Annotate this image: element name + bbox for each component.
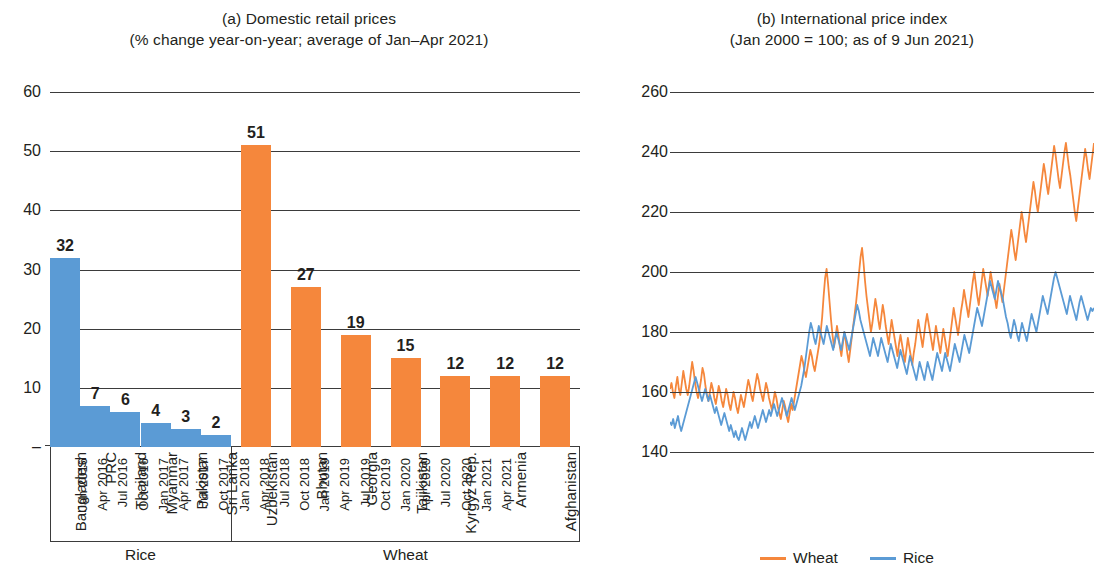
legend-item-rice: Rice [870,549,934,567]
bar: 51 [241,145,271,447]
line-series-wheat [670,143,1094,422]
bar-value-label: 4 [151,402,160,420]
line-x-axis-tick: Jul 2018 [277,458,292,507]
bar-value-label: 15 [397,337,415,355]
line-series-rice [670,272,1094,440]
bar-y-axis-tick: 50 [23,143,41,159]
line-x-axis-tick: Jan 2020 [398,458,413,512]
bar-fill [391,358,421,447]
line-x-axis-tick: Jan 2021 [479,458,494,512]
bar-fill [341,335,371,447]
line-y-axis-tick: 140 [641,444,668,460]
line-x-axis-tick: Apr 2017 [176,458,191,511]
bar-value-label: 19 [347,314,365,332]
bar-value-label: 7 [91,385,100,403]
bar: 12 [490,376,520,447]
bar: 12 [540,376,570,447]
bar-gridline [50,151,580,152]
line-gridline [670,152,1094,153]
bar-fill [440,376,470,447]
line-gridline [670,332,1094,333]
panel-b-title-line2: (Jan 2000 = 100; as of 9 Jun 2021) [610,29,1094,50]
bar-y-axis-tick: 60 [23,84,41,100]
line-y-axis-tick: 160 [641,384,668,400]
bar: 32 [50,258,80,447]
bar-y-axis-tick: – [32,439,41,455]
bar: 19 [341,335,371,447]
line-x-axis-tick: Jan 2016 [75,458,90,512]
line-y-axis-tick: 200 [641,264,668,280]
line-x-axis-tick: Oct 2017 [216,458,231,511]
bar-category-label: Afghanistan [562,452,579,531]
bar-fill [50,258,80,447]
bar: 27 [291,287,321,447]
bar-y-axis-tick: 40 [23,202,41,218]
bar: 7 [80,406,110,447]
panel-international-price-index: (b) International price index (Jan 2000 … [600,0,1094,575]
bar-fill [201,435,231,447]
line-x-axis-tick: Jul 2017 [196,458,211,507]
panel-a-title-line1: (a) Domestic retail prices [18,8,600,29]
line-chart-plot-area: 140160180200220240260 [670,92,1094,452]
panel-a-title-line2: (% change year-on-year; average of Jan–A… [18,29,600,50]
line-x-axis-tick: Oct 2016 [136,458,151,511]
legend-label: Rice [903,549,934,566]
bar-value-label: 12 [546,355,564,373]
legend-swatch-wheat [760,557,786,560]
line-x-axis-tick: Jul 2016 [115,458,130,507]
bar-fill [490,376,520,447]
bar-gridline [50,210,580,211]
bar-chart-plot-area: –102030405060327643251271915121212 [50,92,580,447]
bar: 3 [171,429,201,447]
bar-fill [291,287,321,447]
line-gridline [670,92,1094,93]
line-x-axis-tick: Oct 2019 [378,458,393,511]
group-label-wheat: Wheat [231,546,580,564]
bar-fill [80,406,110,447]
line-gridline [670,272,1094,273]
line-x-axis-tick: Apr 2018 [257,458,272,511]
line-gridline [670,452,1094,453]
line-y-axis-tick: 180 [641,324,668,340]
legend-swatch-rice [870,557,896,560]
line-x-axis-tick: Oct 2018 [297,458,312,511]
line-x-axis-tick: Jan 2019 [317,458,332,512]
line-x-axis-tick: Oct 2020 [459,458,474,511]
bar-gridline [50,92,580,93]
line-x-axis-tick: Apr 2020 [418,458,433,511]
bar-value-label: 27 [297,266,315,284]
bar-fill [241,145,271,447]
line-x-axis-tick: Apr 2016 [95,458,110,511]
line-y-axis-tick: 240 [641,144,668,160]
line-x-axis-tick: Jul 2020 [438,458,453,507]
bar-value-label: 32 [56,237,74,255]
line-y-axis-tick: 260 [641,84,668,100]
panel-b-title: (b) International price index (Jan 2000 … [600,8,1094,50]
bar: 6 [110,412,140,448]
line-chart-legend: WheatRice [600,549,1094,567]
bar-value-label: 6 [121,391,130,409]
line-x-axis-tick: Jan 2017 [156,458,171,512]
bar-y-axis-tick: 10 [23,380,41,396]
bar-value-label: 2 [211,414,220,432]
group-label-rice: Rice [50,546,231,564]
bar-fill [171,429,201,447]
bar: 4 [141,423,171,447]
bar: 2 [201,435,231,447]
bar-value-label: 3 [181,408,190,426]
legend-item-wheat: Wheat [760,549,838,567]
bar-category-label: Armenia [512,452,529,508]
legend-label: Wheat [793,549,838,566]
bar-value-label: 12 [446,355,464,373]
bar-value-label: 51 [247,124,265,142]
bar: 15 [391,358,421,447]
bar-fill [141,423,171,447]
panel-b-title-line1: (b) International price index [610,8,1094,29]
bar-gridline [50,270,580,271]
bar-fill [110,412,140,448]
line-y-axis-tick: 220 [641,204,668,220]
line-x-axis-tick: Apr 2019 [337,458,352,511]
bar-fill [540,376,570,447]
bar-y-axis-tick: 30 [23,262,41,278]
bar-value-label: 12 [496,355,514,373]
